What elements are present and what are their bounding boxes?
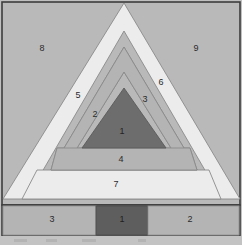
region-7-base-strip <box>22 170 221 199</box>
bottom-label-2: 2 <box>187 214 192 224</box>
region-label-7: 7 <box>113 179 118 189</box>
region-label-6: 6 <box>158 77 163 87</box>
region-label-9: 9 <box>193 43 198 53</box>
bottom-scan-artifact-row <box>0 236 242 245</box>
nested-triangles-figure: 8 9 5 6 2 3 1 4 7 3 1 2 <box>0 0 242 245</box>
bottom-label-1: 1 <box>119 214 124 224</box>
region-label-4: 4 <box>118 154 123 164</box>
region-label-5: 5 <box>75 90 80 100</box>
region-label-3: 3 <box>142 94 147 104</box>
region-label-8: 8 <box>39 43 44 53</box>
region-label-2: 2 <box>92 109 97 119</box>
diagram-canvas: 8 9 5 6 2 3 1 4 7 3 1 2 <box>0 0 242 245</box>
bottom-label-3: 3 <box>49 214 54 224</box>
region-label-1: 1 <box>119 126 124 136</box>
bottom-cell-right <box>148 206 239 235</box>
region-4-base-strip-overlay <box>51 148 197 170</box>
